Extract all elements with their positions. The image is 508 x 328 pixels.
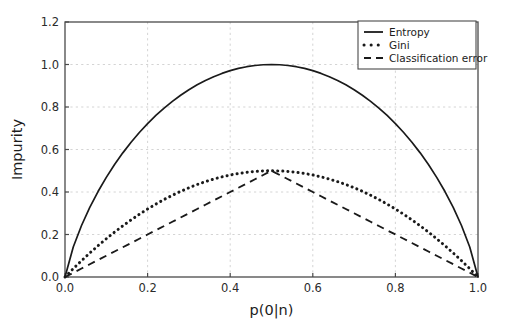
x-tick-label: 0.6 [304,281,322,295]
legend-label-entropy: Entropy [389,26,430,38]
y-tick-label: 0.4 [41,185,59,199]
y-tick-label: 1.2 [41,15,59,29]
impurity-chart: 0.00.20.40.60.81.0 0.00.20.40.60.81.01.2… [0,0,508,328]
y-tick-label: 0.0 [41,270,59,284]
chart-figure: 0.00.20.40.60.81.0 0.00.20.40.60.81.01.2… [0,0,508,328]
y-tick-label: 0.8 [41,100,59,114]
x-axis-label: p(0|n) [250,302,294,319]
x-tick-label: 0.8 [386,281,404,295]
x-tick-label: 1.0 [469,281,487,295]
legend-label-gini: Gini [389,39,410,51]
y-axis-label: Impurity [9,119,25,180]
y-tick-label: 1.0 [41,58,59,72]
x-tick-label: 0.4 [221,281,239,295]
y-tick-label: 0.2 [41,228,59,242]
chart-legend: Entropy Gini Classification error [358,21,488,69]
x-tick-label: 0.2 [138,281,156,295]
legend-label-classification-error: Classification error [389,52,488,64]
y-tick-label: 0.6 [41,143,59,157]
